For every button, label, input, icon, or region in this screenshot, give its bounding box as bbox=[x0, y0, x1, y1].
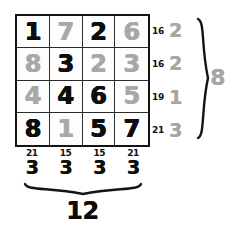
grid-cell-r3c4: 5 bbox=[115, 81, 148, 113]
cell-digit: 2 bbox=[90, 20, 106, 44]
cell-digit: 5 bbox=[90, 117, 106, 141]
cell-digit: 6 bbox=[90, 84, 106, 108]
grid-cell-r1c3: 2 bbox=[83, 16, 116, 48]
row-annotations: 16 2 16 2 19 1 21 3 bbox=[152, 14, 200, 147]
grid-cell-r4c1: 8 bbox=[17, 113, 50, 145]
grid-cell-r3c1: 4 bbox=[17, 81, 50, 113]
grid-cell-r4c4: 7 bbox=[115, 113, 148, 145]
cell-digit: 6 bbox=[124, 20, 140, 44]
column-reduced-digit: 3 bbox=[93, 158, 106, 177]
number-grid: 1 7 2 6 8 3 2 3 4 4 6 5 8 1 5 7 bbox=[15, 14, 150, 147]
cell-digit: 4 bbox=[58, 84, 74, 108]
grid-cell-r1c4: 6 bbox=[115, 16, 148, 48]
grid-cell-r2c1: 8 bbox=[17, 48, 50, 80]
cell-digit: 5 bbox=[124, 84, 140, 108]
row-annotation-2: 16 2 bbox=[152, 47, 200, 80]
row-sum: 19 bbox=[152, 92, 164, 102]
cell-digit: 3 bbox=[124, 52, 140, 76]
cell-digit: 2 bbox=[90, 52, 106, 76]
column-reduced-digit: 3 bbox=[59, 158, 72, 177]
cell-digit: 1 bbox=[58, 117, 74, 141]
row-reduced-digit: 3 bbox=[169, 121, 182, 140]
row-sum: 21 bbox=[152, 125, 164, 135]
grid-cell-r3c3: 6 bbox=[83, 81, 116, 113]
column-annotation-3: 15 3 bbox=[83, 148, 117, 182]
column-annotation-2: 15 3 bbox=[49, 148, 83, 182]
column-grand-total: 12 bbox=[66, 199, 98, 223]
cell-digit: 3 bbox=[58, 52, 74, 76]
grid-cell-r1c1: 1 bbox=[17, 16, 50, 48]
grid-cell-r2c2: 3 bbox=[50, 48, 83, 80]
grid-cell-r4c3: 5 bbox=[83, 113, 116, 145]
grid-cell-r2c4: 3 bbox=[115, 48, 148, 80]
row-reduced-digit: 2 bbox=[169, 21, 182, 40]
figure-canvas: 1 7 2 6 8 3 2 3 4 4 6 5 8 1 5 7 16 2 16 … bbox=[0, 0, 237, 228]
row-annotation-3: 19 1 bbox=[152, 81, 200, 114]
cell-digit: 1 bbox=[25, 20, 41, 44]
bottom-brace-icon bbox=[24, 182, 142, 196]
row-sum: 16 bbox=[152, 26, 164, 36]
cell-digit: 7 bbox=[124, 117, 140, 141]
grid-cell-r4c2: 1 bbox=[50, 113, 83, 145]
cell-digit: 8 bbox=[25, 52, 41, 76]
row-annotation-4: 21 3 bbox=[152, 114, 200, 147]
column-annotation-4: 21 3 bbox=[116, 148, 150, 182]
row-reduced-digit: 1 bbox=[169, 88, 182, 107]
right-brace-icon bbox=[196, 18, 210, 140]
grid-cell-r2c3: 2 bbox=[83, 48, 116, 80]
cell-digit: 8 bbox=[25, 117, 41, 141]
grid-cell-r3c2: 4 bbox=[50, 81, 83, 113]
column-reduced-digit: 3 bbox=[26, 158, 39, 177]
column-annotations: 21 3 15 3 15 3 21 3 bbox=[15, 148, 150, 182]
row-annotation-1: 16 2 bbox=[152, 14, 200, 47]
row-grand-total: 8 bbox=[210, 67, 225, 89]
cell-digit: 4 bbox=[25, 84, 41, 108]
cell-digit: 7 bbox=[58, 20, 74, 44]
grid-cell-r1c2: 7 bbox=[50, 16, 83, 48]
column-annotation-1: 21 3 bbox=[15, 148, 49, 182]
row-reduced-digit: 2 bbox=[169, 54, 182, 73]
row-sum: 16 bbox=[152, 59, 164, 69]
column-reduced-digit: 3 bbox=[127, 158, 140, 177]
